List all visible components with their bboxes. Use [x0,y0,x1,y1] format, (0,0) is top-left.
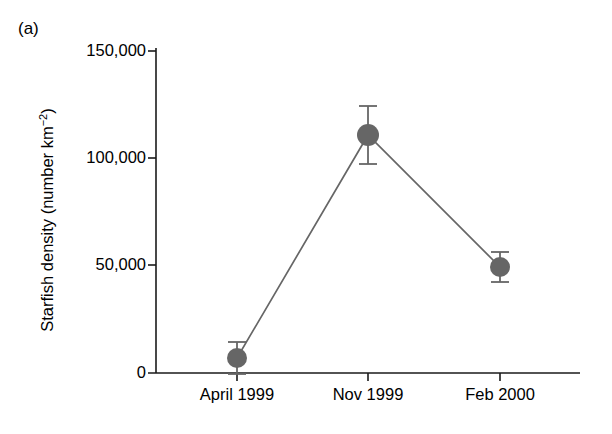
plot-area [0,0,612,434]
data-point-april-1999[interactable] [227,348,247,368]
data-point-nov-1999[interactable] [357,124,379,146]
starfish-density-figure: (a) Starfish density (number km−2) 150,0… [0,0,612,434]
data-point-feb-2000[interactable] [490,257,510,277]
data-series-line [237,135,500,358]
